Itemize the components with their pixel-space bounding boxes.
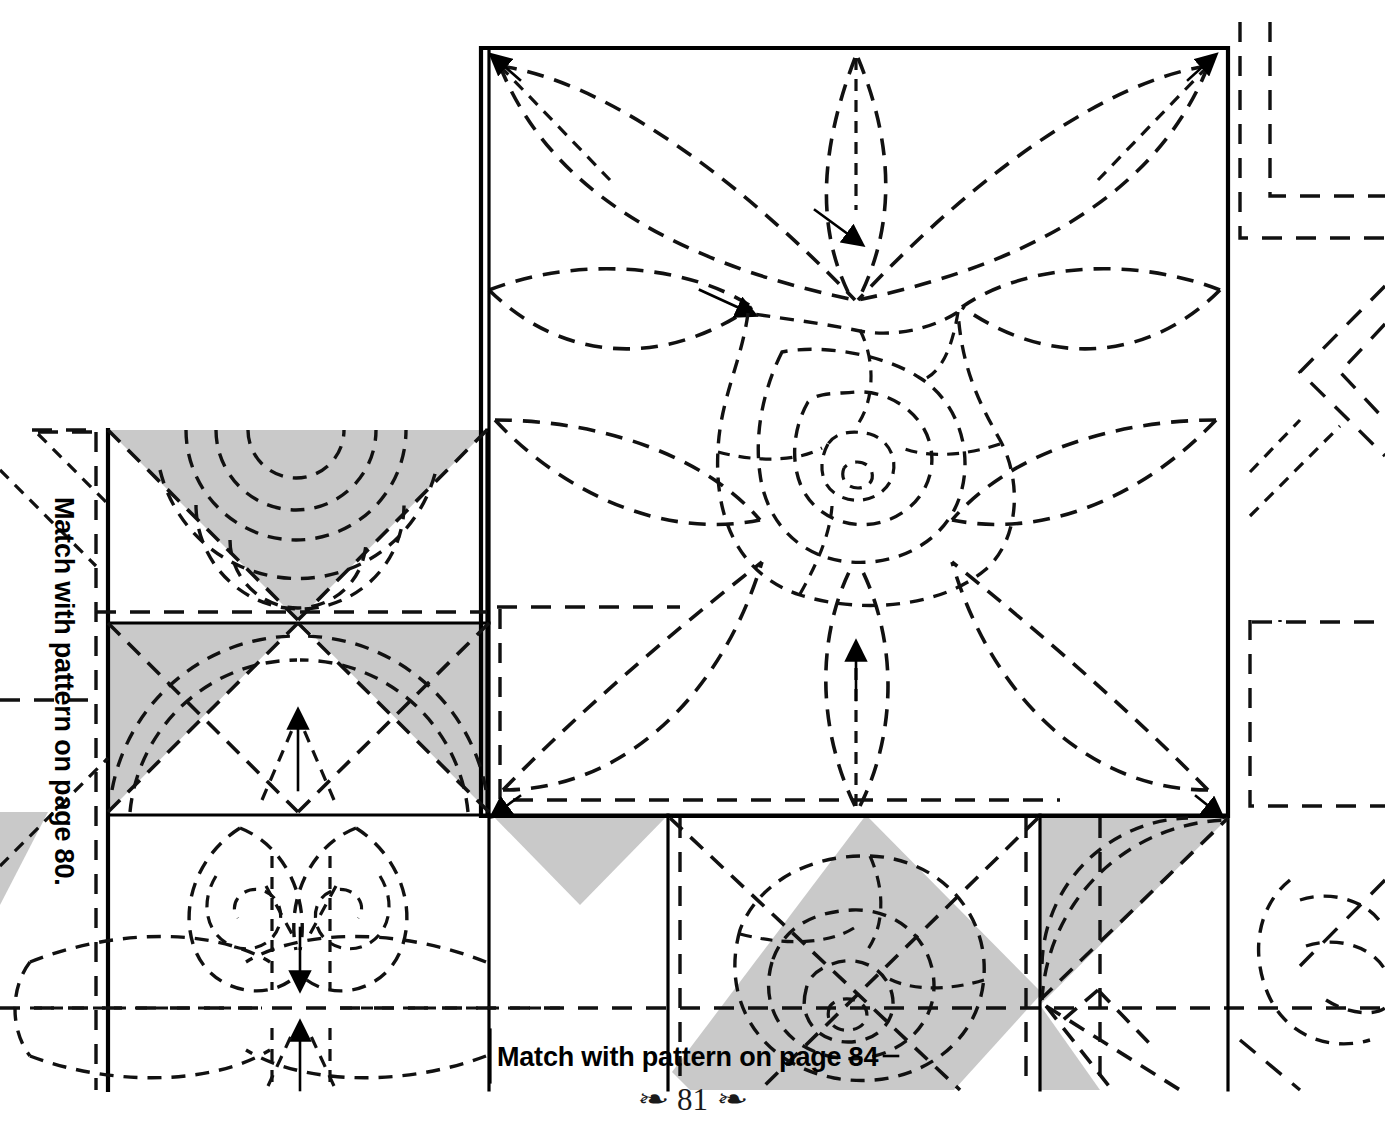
page-folio: ❧81❧ [0, 1084, 1385, 1115]
match-bottom-label: Match with pattern on page 84 [497, 1044, 878, 1071]
pattern-page: .solid { fill:none; stroke:#000; stroke-… [0, 0, 1385, 1128]
page-number: 81 [677, 1082, 708, 1117]
centre-rose-motif [718, 312, 1015, 605]
swash-ornament-left: ❧ [637, 1087, 670, 1113]
swash-ornament-right: ❧ [716, 1087, 749, 1113]
rose-leaf-block [481, 48, 1228, 816]
match-left-label: Match with pattern on page 80. [50, 497, 77, 886]
quilting-pattern-diagram: .solid { fill:none; stroke:#000; stroke-… [0, 0, 1385, 1128]
